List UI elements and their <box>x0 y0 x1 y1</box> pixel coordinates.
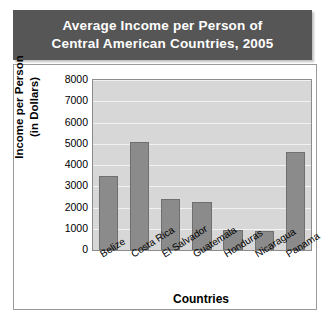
x-axis-title: Countries <box>92 292 310 306</box>
x-axis-ticks: BelizeCosta RicaEl SalvadorGuatemalaHond… <box>92 250 310 292</box>
y-tick-label: 8000 <box>42 73 88 85</box>
gridline <box>93 186 311 187</box>
gridline <box>93 144 311 145</box>
gridline <box>93 80 311 81</box>
y-axis-title-line-1: Income per Person <box>12 27 27 187</box>
chart-title-banner: Average Income per Person of Central Ame… <box>13 10 312 60</box>
y-tick-label: 7000 <box>42 94 88 106</box>
y-tick-label: 6000 <box>42 116 88 128</box>
bar-costa-rica <box>130 142 149 250</box>
gridline <box>93 165 311 166</box>
chart-title-line-1: Average Income per Person of <box>62 17 262 35</box>
y-tick-label: 2000 <box>42 201 88 213</box>
y-tick-label: 4000 <box>42 158 88 170</box>
y-tick-label: 3000 <box>42 179 88 191</box>
y-tick-label: 1000 <box>42 222 88 234</box>
chart-title-line-2: Central American Countries, 2005 <box>52 35 274 53</box>
y-axis-ticks: 800070006000500040003000200010000 <box>38 79 88 249</box>
y-tick-label: 5000 <box>42 137 88 149</box>
gridline <box>93 101 311 102</box>
gridline <box>93 123 311 124</box>
chart-page: Average Income per Person of Central Ame… <box>0 0 328 319</box>
y-tick-label: 0 <box>42 243 88 255</box>
